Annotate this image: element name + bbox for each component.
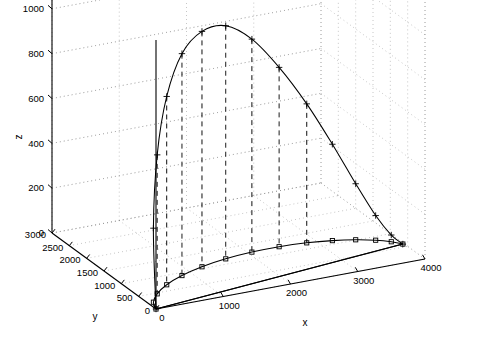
y-tick [104,267,107,271]
z-tick-label: 600 [28,93,44,104]
grid-floor-y [121,234,390,284]
z-tick-label: 0 [39,227,44,238]
y-tick [87,255,90,259]
x-tick [221,292,224,296]
trajectory-marker [329,141,335,147]
trajectory-marker [179,50,185,56]
trajectory-marker [304,101,310,107]
grid-floor-y [87,208,356,258]
grid-floor-y [69,196,338,246]
z-tick-label: 400 [28,138,44,149]
grid-wallR-z [321,0,425,35]
trajectory-marker [199,28,205,34]
z-tick [48,5,52,9]
z-tick [48,140,52,144]
grid-lines [52,0,425,309]
trajectory-curve [153,25,402,309]
plot-canvas: 0100020003000400005001000150020002500300… [0,0,483,345]
grid-wallR-z [321,138,425,214]
z-tick [48,230,52,234]
y-tick-label: 1500 [77,267,98,278]
x-tick [288,280,291,284]
x-tick-label: 2000 [286,287,307,298]
trajectory-marker [352,181,358,187]
trajectory-marker [223,23,229,29]
z-tick-label: 800 [28,48,44,59]
y-tick-label: 2500 [42,242,63,253]
z-axis-label: z [13,135,24,140]
y-tick-label: 2000 [60,254,81,265]
y-tick [121,280,124,284]
x-tick [423,255,426,259]
z-tick [48,50,52,54]
y-tick [69,242,72,246]
trajectory-marker [164,93,170,99]
z-tick [48,95,52,99]
x-tick-label: 3000 [353,275,374,286]
z-tick-label: 1000 [23,3,44,14]
grid-wallR-z [321,183,425,259]
grid-wallR-z0 [52,138,321,188]
x-tick [355,267,358,271]
figure-3d-plot: 0100020003000400005001000150020002500300… [0,0,483,345]
y-axis-label: y [93,311,98,322]
trajectory-marker [372,212,378,218]
z-tick [48,185,52,189]
grid-floor-x [187,208,291,284]
y-tick-label: 1000 [94,280,115,291]
trajectory-marker [154,152,160,158]
y-tick-label: 0 [145,305,150,316]
y-tick [139,293,142,297]
x-tick-label: 1000 [219,300,240,311]
x-axis-label: x [303,317,308,328]
x-tick-label: 4000 [420,262,441,273]
z-tick-label: 200 [28,182,44,193]
y-tick-label: 500 [117,292,133,303]
x-tick-label: 0 [159,312,164,323]
grid-wallR-z [321,49,425,125]
